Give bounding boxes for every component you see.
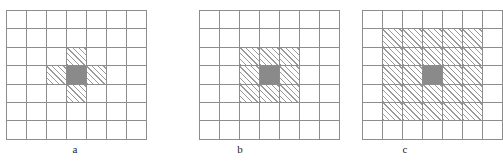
grid-cell xyxy=(27,66,47,84)
grid-cell xyxy=(107,11,127,29)
grid-cell xyxy=(463,121,483,139)
grid-cell xyxy=(300,66,320,84)
grid-cell xyxy=(483,48,503,66)
grid-cell xyxy=(483,29,503,47)
grid-cell xyxy=(300,121,320,139)
center-cell xyxy=(260,66,280,84)
panel-a-caption: a xyxy=(0,142,150,156)
grid-cell xyxy=(47,121,67,139)
grid-cell xyxy=(200,11,220,29)
grid-cell xyxy=(220,103,240,121)
neighbor-cell xyxy=(463,103,483,121)
neighbor-cell xyxy=(240,85,260,103)
neighbor-cell xyxy=(403,66,423,84)
grid-cell xyxy=(87,29,107,47)
grid-cell xyxy=(200,121,220,139)
neighbor-cell xyxy=(240,66,260,84)
neighbor-cell xyxy=(443,48,463,66)
grid-cell xyxy=(127,103,147,121)
grid-cell xyxy=(280,103,300,121)
neighbor-cell xyxy=(260,48,280,66)
grid-cell xyxy=(7,11,27,29)
grid-cell xyxy=(47,103,67,121)
neighbor-cell xyxy=(240,48,260,66)
grid-cell xyxy=(7,121,27,139)
grid-cell xyxy=(240,121,260,139)
neighbor-cell xyxy=(280,85,300,103)
panel-b: b xyxy=(165,0,330,163)
grid-cell xyxy=(67,29,87,47)
grid-cell xyxy=(27,48,47,66)
neighbor-cell xyxy=(403,103,423,121)
neighbor-cell xyxy=(423,29,443,47)
neighbor-cell xyxy=(260,85,280,103)
grid-cell xyxy=(127,85,147,103)
grid-cell xyxy=(200,103,220,121)
grid-cell xyxy=(107,29,127,47)
grid-cell xyxy=(220,29,240,47)
neighbor-cell xyxy=(443,66,463,84)
grid-cell xyxy=(363,85,383,103)
grid-cell xyxy=(423,11,443,29)
neighbor-cell xyxy=(403,48,423,66)
grid-cell xyxy=(220,66,240,84)
grid-cell xyxy=(67,103,87,121)
grid-cell xyxy=(423,121,443,139)
grid-cell xyxy=(127,66,147,84)
grid-cell xyxy=(383,11,403,29)
grid-cell xyxy=(260,121,280,139)
neighbor-cell xyxy=(403,85,423,103)
center-cell xyxy=(423,66,443,84)
grid-cell xyxy=(280,11,300,29)
grid-cell xyxy=(67,11,87,29)
grid-cell xyxy=(463,11,483,29)
grid-cell xyxy=(127,11,147,29)
neighbor-cell xyxy=(423,48,443,66)
grid-cell xyxy=(483,66,503,84)
neighbor-cell xyxy=(443,103,463,121)
neighbor-cell xyxy=(463,29,483,47)
grid-cell xyxy=(47,85,67,103)
grid-cell xyxy=(300,85,320,103)
grid-cell xyxy=(240,103,260,121)
neighbor-cell xyxy=(67,48,87,66)
grid-cell xyxy=(107,66,127,84)
neighbor-cell xyxy=(443,29,463,47)
grid-cell xyxy=(220,11,240,29)
grid-cell xyxy=(47,11,67,29)
grid-cell xyxy=(300,29,320,47)
grid-cell xyxy=(127,121,147,139)
grid-cell xyxy=(363,48,383,66)
grid-cell xyxy=(300,48,320,66)
grid-cell xyxy=(483,11,503,29)
neighbor-cell xyxy=(383,103,403,121)
grid-cell xyxy=(443,11,463,29)
grid-cell xyxy=(403,11,423,29)
grid-cell xyxy=(363,11,383,29)
grid-cell xyxy=(87,48,107,66)
panel-a: a xyxy=(0,0,165,163)
grid-cell xyxy=(363,29,383,47)
neighbor-cell xyxy=(383,66,403,84)
grid-cell xyxy=(27,103,47,121)
grid-cell xyxy=(7,48,27,66)
grid-cell xyxy=(220,48,240,66)
panel-c: c xyxy=(330,0,496,163)
grid-cell xyxy=(127,48,147,66)
grid-cell xyxy=(443,121,463,139)
grid-cell xyxy=(7,66,27,84)
grid-cell xyxy=(47,48,67,66)
neighbor-cell xyxy=(443,85,463,103)
grid-cell xyxy=(300,11,320,29)
grid-cell xyxy=(260,103,280,121)
grid-cell xyxy=(200,29,220,47)
grid-cell xyxy=(27,29,47,47)
grid-cell xyxy=(300,103,320,121)
grid-cell xyxy=(7,29,27,47)
grid-cell xyxy=(7,85,27,103)
grid-cell xyxy=(87,11,107,29)
neighbor-cell xyxy=(67,85,87,103)
grid-cell xyxy=(220,85,240,103)
grid-cell xyxy=(483,103,503,121)
